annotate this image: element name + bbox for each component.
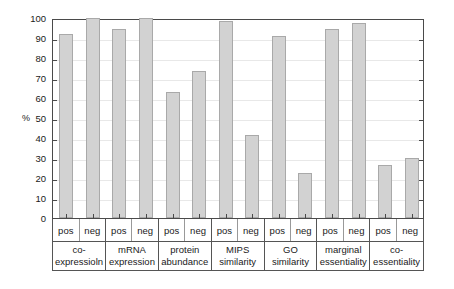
x-axis-tick	[412, 214, 413, 218]
category-group-column: posnegco-expressioln	[53, 219, 106, 270]
bar	[298, 173, 312, 218]
x-axis-tick	[305, 214, 306, 218]
y-tick-label: 20	[22, 174, 46, 184]
bar	[272, 36, 286, 218]
bars-layer	[53, 20, 423, 218]
category-group-column: posnegco-essentiality	[370, 219, 423, 270]
x-axis-tick	[199, 214, 200, 218]
bar-chart: % 1009080706050403020100 posnegco-expres…	[0, 0, 454, 289]
x-axis-tick	[226, 214, 227, 218]
bar	[325, 29, 339, 218]
posneg-label-neg: neg	[344, 219, 369, 241]
category-label-line: co-	[390, 244, 403, 256]
category-label-line: similarity	[219, 256, 256, 268]
posneg-row: posneg	[53, 219, 105, 242]
category-group-label: marginalessentiality	[317, 242, 369, 270]
category-group-label: co-essentiality	[370, 242, 423, 270]
posneg-label-neg: neg	[397, 219, 423, 241]
posneg-label-pos: pos	[317, 219, 343, 241]
posneg-label-neg: neg	[238, 219, 263, 241]
bar	[378, 165, 392, 218]
x-axis-tick	[385, 214, 386, 218]
category-group-column: posnegMIPSsimilarity	[212, 219, 265, 270]
category-label-line: expressioln	[55, 256, 103, 268]
bar	[139, 18, 153, 218]
y-tick-label: 50	[22, 114, 46, 124]
category-label-line: expression	[109, 256, 155, 268]
category-group-label: mRNAexpression	[106, 242, 158, 270]
bar	[352, 23, 366, 218]
bar	[245, 135, 259, 218]
posneg-row: posneg	[212, 219, 264, 242]
posneg-label-neg: neg	[185, 219, 210, 241]
posneg-row: posneg	[265, 219, 317, 242]
category-group-label: co-expressioln	[53, 242, 105, 270]
category-label-line: protein	[170, 244, 199, 256]
category-label-line: mRNA	[118, 244, 146, 256]
bar	[166, 92, 180, 218]
x-axis-tick	[332, 214, 333, 218]
category-label-line: GO	[283, 244, 298, 256]
posneg-row: posneg	[106, 219, 158, 242]
y-tick-label: 80	[22, 54, 46, 64]
category-group-column: posnegGOsimilarity	[265, 219, 318, 270]
posneg-label-neg: neg	[132, 219, 157, 241]
bar	[192, 71, 206, 218]
x-axis-tick	[146, 214, 147, 218]
category-group-label: GOsimilarity	[265, 242, 317, 270]
category-label-line: co-	[72, 244, 85, 256]
x-axis-tick	[93, 214, 94, 218]
category-label-table: posnegco-expressiolnposnegmRNAexpression…	[52, 219, 424, 271]
x-axis-tick	[119, 214, 120, 218]
category-group-column: posnegmRNAexpression	[106, 219, 159, 270]
posneg-label-neg: neg	[80, 219, 106, 241]
bar	[112, 29, 126, 218]
category-label-line: similarity	[272, 256, 309, 268]
y-axis-tick-labels: 1009080706050403020100	[22, 14, 46, 225]
y-tick-label: 100	[22, 14, 46, 24]
category-label-line: MIPS	[226, 244, 249, 256]
category-group-column: posnegproteinabundance	[159, 219, 212, 270]
x-axis-tick	[359, 214, 360, 218]
posneg-label-neg: neg	[291, 219, 316, 241]
y-tick-label: 0	[22, 214, 46, 224]
posneg-label-pos: pos	[265, 219, 291, 241]
y-tick-label: 30	[22, 154, 46, 164]
y-tick-label: 70	[22, 74, 46, 84]
category-group-column: posnegmarginalessentiality	[317, 219, 370, 270]
y-tick-label: 10	[22, 194, 46, 204]
bar	[219, 21, 233, 218]
posneg-row: posneg	[370, 219, 423, 242]
posneg-label-pos: pos	[159, 219, 185, 241]
y-tick-label: 60	[22, 94, 46, 104]
posneg-label-pos: pos	[370, 219, 397, 241]
bar	[86, 18, 100, 218]
category-label-line: marginal	[325, 244, 361, 256]
category-group-label: MIPSsimilarity	[212, 242, 264, 270]
y-tick-label: 40	[22, 134, 46, 144]
x-axis-tick	[252, 214, 253, 218]
posneg-label-pos: pos	[212, 219, 238, 241]
y-tick-label: 90	[22, 34, 46, 44]
posneg-row: posneg	[159, 219, 211, 242]
x-axis-tick	[66, 214, 67, 218]
posneg-label-pos: pos	[53, 219, 80, 241]
posneg-label-pos: pos	[106, 219, 132, 241]
x-axis-tick	[173, 214, 174, 218]
category-label-line: essentiality	[320, 256, 367, 268]
posneg-row: posneg	[317, 219, 369, 242]
category-label-line: abundance	[161, 256, 208, 268]
bar	[405, 158, 419, 218]
bar	[59, 34, 73, 218]
category-label-line: essentiality	[373, 256, 420, 268]
x-axis-tick	[279, 214, 280, 218]
category-group-label: proteinabundance	[159, 242, 211, 270]
plot-area	[52, 19, 424, 219]
